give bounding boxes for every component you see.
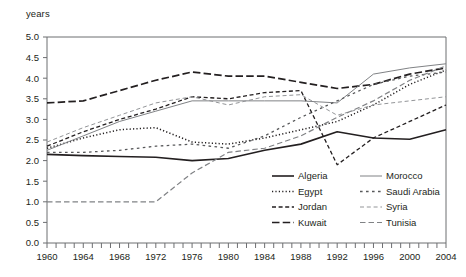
chart-container: years 0.00.51.01.52.02.53.03.54.04.55.01… (0, 0, 466, 277)
series-line-kuwait (47, 68, 446, 103)
series-line-egypt (47, 70, 446, 148)
x-tick-label: 2000 (399, 251, 420, 262)
legend-label-saudi-arabia: Saudi Arabia (386, 186, 441, 197)
y-tick-label: 0.5 (26, 217, 39, 228)
legend-label-algeria: Algeria (298, 170, 328, 181)
y-tick-label: 4.0 (26, 73, 39, 84)
y-tick-label: 2.0 (26, 155, 39, 166)
line-chart: 0.00.51.01.52.02.53.03.54.04.55.01960196… (0, 0, 466, 277)
x-tick-label: 1960 (36, 251, 57, 262)
y-tick-label: 1.5 (26, 176, 39, 187)
x-tick-label: 1972 (145, 251, 166, 262)
series-line-jordan (47, 91, 446, 165)
legend-label-syria: Syria (386, 201, 408, 212)
y-tick-label: 5.0 (26, 31, 39, 42)
x-tick-label: 1980 (218, 251, 239, 262)
y-tick-label: 3.0 (26, 114, 39, 125)
legend-label-jordan: Jordan (298, 201, 327, 212)
y-tick-label: 1.0 (26, 196, 39, 207)
series-line-algeria (47, 130, 446, 161)
series-line-syria (47, 95, 446, 142)
legend-label-tunisia: Tunisia (386, 217, 417, 228)
x-tick-label: 1988 (290, 251, 311, 262)
y-tick-label: 3.5 (26, 93, 39, 104)
y-tick-label: 0.0 (26, 237, 39, 248)
legend-label-morocco: Morocco (386, 170, 422, 181)
legend-label-kuwait: Kuwait (298, 217, 327, 228)
y-tick-label: 2.5 (26, 134, 39, 145)
y-tick-label: 4.5 (26, 52, 39, 63)
legend-label-egypt: Egypt (298, 186, 323, 197)
x-tick-label: 1968 (109, 251, 130, 262)
x-tick-label: 1976 (182, 251, 203, 262)
x-tick-label: 1992 (327, 251, 348, 262)
x-tick-label: 1996 (363, 251, 384, 262)
x-tick-label: 2004 (435, 251, 456, 262)
x-tick-label: 1984 (254, 251, 275, 262)
x-tick-label: 1964 (73, 251, 94, 262)
